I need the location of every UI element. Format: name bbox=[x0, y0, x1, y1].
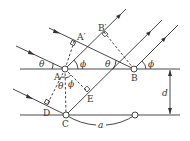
label-b-prime: B′ bbox=[98, 23, 107, 33]
atom-b bbox=[131, 66, 137, 72]
a-curve-right bbox=[106, 115, 135, 125]
label-a-prime: A′ bbox=[76, 32, 86, 42]
right-angle-aprime bbox=[70, 40, 75, 45]
scattered-ray-b bbox=[134, 25, 178, 69]
atom-c bbox=[63, 112, 69, 118]
arc-phi-a bbox=[74, 60, 78, 69]
arc-theta-a bbox=[52, 63, 53, 69]
label-b: B bbox=[131, 73, 138, 83]
incident-ray-b bbox=[49, 28, 134, 69]
right-angle-d bbox=[44, 99, 49, 104]
arrow-incident-a bbox=[28, 50, 35, 55]
label-a-distance: a bbox=[98, 120, 103, 130]
incident-ray-c bbox=[13, 89, 66, 115]
label-phi-below: ϕ bbox=[68, 79, 74, 89]
label-e: E bbox=[87, 94, 94, 104]
label-theta-a: θ bbox=[39, 59, 45, 69]
atom-c-neighbor bbox=[132, 112, 138, 118]
arc-phi-b bbox=[142, 61, 146, 69]
d-arrow-top bbox=[168, 70, 172, 76]
dashed-a-c bbox=[65, 69, 66, 115]
arc-phi-below bbox=[65, 75, 71, 78]
label-d-distance: d bbox=[162, 88, 168, 98]
label-c: C bbox=[62, 119, 69, 129]
label-theta-b: θ bbox=[105, 59, 111, 69]
d-arrow-bottom bbox=[168, 108, 172, 114]
label-phi-a: ϕ bbox=[80, 59, 86, 69]
arrow-incident-c bbox=[26, 94, 33, 99]
arrow-incident-b bbox=[53, 29, 60, 34]
label-phi-b: ϕ bbox=[148, 59, 154, 69]
label-theta-below: θ bbox=[58, 81, 64, 91]
crystal-diffraction-diagram: A A′ B B′ C D E θ ϕ θ ϕ θ ϕ d a bbox=[0, 0, 190, 141]
arc-theta-b bbox=[113, 60, 116, 69]
a-curve-left bbox=[66, 115, 96, 125]
label-d-point: D bbox=[43, 108, 50, 118]
atom-a bbox=[62, 66, 68, 72]
